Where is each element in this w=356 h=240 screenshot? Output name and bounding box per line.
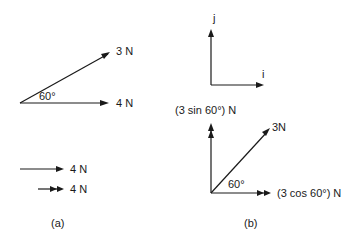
legend-single-label: 4 N [70, 163, 87, 175]
double-arrowhead-icon-1 [50, 186, 57, 192]
vector-3n-arrowhead-icon [101, 52, 110, 59]
caption-a: (a) [51, 217, 64, 229]
j-arrowhead-icon [208, 29, 214, 37]
horizontal-arrowhead-icon-2 [264, 190, 271, 196]
unit-vectors: j i [208, 12, 264, 88]
caption-b: (b) [244, 217, 257, 229]
vector-4n-label: 4 N [116, 97, 133, 109]
legend-double-label: 4 N [70, 183, 87, 195]
vector-diagram: 3 N 4 N 60° 4 N 4 N (a) j i (3 sin 60°) … [0, 0, 356, 240]
horizontal-arrowhead-icon-1 [257, 190, 264, 196]
j-label: j [212, 12, 215, 24]
vector-4n-arrowhead-icon [100, 100, 109, 106]
resultant-arrowhead-icon [262, 128, 270, 136]
angle-label-a: 60° [39, 90, 56, 102]
vertical-arrowhead-icon-1 [208, 123, 214, 131]
vector-3n-line [20, 54, 108, 103]
panel-b: (3 sin 60°) N 3N 60° (3 cos 60°) N (b) [175, 104, 341, 229]
panel-a: 3 N 4 N 60° 4 N 4 N (a) [20, 45, 133, 229]
single-arrowhead-icon [56, 166, 64, 172]
angle-label-b: 60° [228, 178, 245, 190]
vertical-arrowhead-icon-2 [208, 130, 214, 138]
vector-3n-label: 3 N [116, 45, 133, 57]
i-label: i [262, 68, 264, 80]
horizontal-component-label: (3 cos 60°) N [277, 187, 341, 199]
vertical-component-label: (3 sin 60°) N [175, 104, 236, 116]
double-arrowhead-icon-2 [57, 186, 64, 192]
i-arrowhead-icon [256, 82, 264, 88]
resultant-label: 3N [272, 121, 286, 133]
